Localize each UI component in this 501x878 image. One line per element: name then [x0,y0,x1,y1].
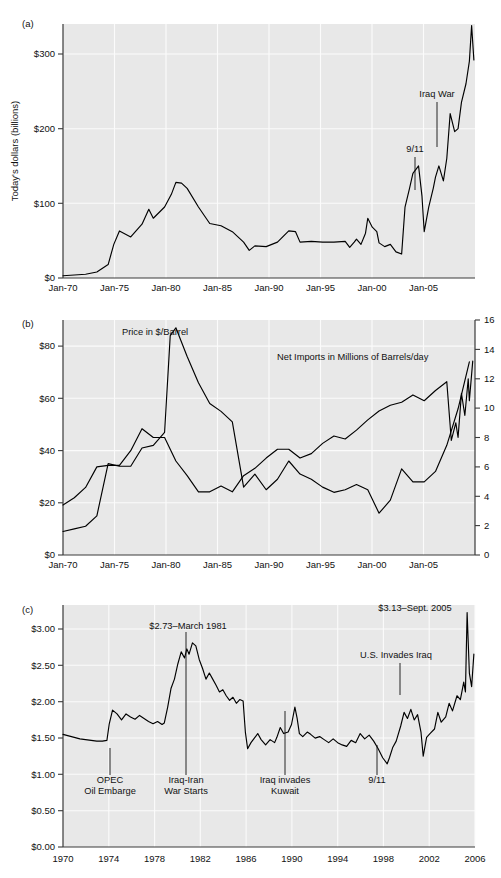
panel-b-label-net-imports: Net Imports in Millions of Barrels/day [277,352,429,362]
oil-price-figure: (a) [0,0,501,878]
panel-c-annotation-peak-2005-label: $3.13–Sept. 2005 [378,603,451,613]
panel-a-xtick-7: Jan-05 [409,282,438,293]
panel-b-ytick-right-5: 10 [484,402,495,413]
panel-c-annotation-peak-1981-label: $2.73–March 1981 [149,621,227,631]
panel-c: (c) [0,585,501,878]
panel-c-xtick-8: 2002 [419,853,440,864]
panel-a-ytick-3: $300 [34,48,55,59]
panel-c-annotation-iraq-iran-line1: Iraq-Iran [168,775,203,785]
panel-b-ytick-right-0: 0 [484,549,489,560]
panel-a: (a) [0,0,501,300]
panel-c-xtick-2: 1978 [144,853,165,864]
panel-b-ytick-right-1: 2 [484,520,489,531]
panel-c-xtick-7: 1998 [373,853,394,864]
panel-c-xtick-4: 1986 [236,853,257,864]
panel-b-xtick-2: Jan-80 [151,559,180,570]
panel-c-xtick-5: 1990 [281,853,302,864]
panel-c-xtick-3: 1982 [190,853,211,864]
panel-c-annotation-kuwait-line1: Iraq invades [260,775,311,785]
panel-c-ytick-3: $1.50 [31,732,55,743]
panel-a-y-ticks: $0 $100 $200 $300 [34,48,63,283]
panel-b-ytick-left-4: $80 [39,340,55,351]
panel-c-annotation-opec-line2: Oil Embarge [84,786,136,796]
panel-c-ytick-1: $0.50 [31,805,55,816]
panel-a-svg: (a) [0,0,501,300]
panel-a-xtick-0: Jan-70 [48,282,77,293]
panel-a-xtick-2: Jan-80 [151,282,180,293]
panel-b-ytick-right-3: 6 [484,461,489,472]
panel-c-x-ticks: 1970 1974 1978 1982 1986 1990 1994 1998 … [52,853,485,864]
panel-b-xtick-0: Jan-70 [48,559,77,570]
panel-a-x-ticks: Jan-70 Jan-75 Jan-80 Jan-85 Jan-90 Jan-9… [48,282,438,293]
panel-c-ytick-6: $3.00 [31,623,55,634]
panel-b-ytick-left-3: $60 [39,393,55,404]
panel-c-ytick-0: $0.00 [31,841,55,852]
panel-a-xtick-4: Jan-90 [254,282,283,293]
panel-b-xtick-3: Jan-85 [203,559,232,570]
panel-c-annotation-911-label: 9/11 [368,775,385,785]
panel-b-xtick-7: Jan-05 [409,559,438,570]
panel-b-label: (b) [22,318,34,329]
panel-b-xtick-1: Jan-75 [100,559,129,570]
panel-a-xtick-3: Jan-85 [203,282,232,293]
panel-b-y-ticks-right: 0 2 4 6 8 10 12 14 16 [475,314,495,560]
panel-b-xtick-5: Jan-95 [306,559,335,570]
panel-c-ytick-4: $2.00 [31,696,55,707]
panel-b-xtick-4: Jan-90 [254,559,283,570]
panel-b-ytick-right-4: 8 [484,432,489,443]
panel-b-y-ticks-left: $0 $20 $40 $60 $80 [39,340,63,560]
panel-b-ytick-right-2: 4 [484,491,489,502]
panel-c-annotation-us-invades-iraq-label: U.S. Invades Iraq [360,650,432,660]
panel-b: (b) [0,300,501,585]
panel-b-ytick-left-2: $40 [39,445,55,456]
panel-c-annotation-iraq-iran-line2: War Starts [164,786,208,796]
panel-c-xtick-1: 1974 [98,853,119,864]
panel-a-annotation-911-label: 9/11 [406,144,423,154]
panel-a-ytick-2: $200 [34,123,55,134]
panel-b-x-ticks: Jan-70 Jan-75 Jan-80 Jan-85 Jan-90 Jan-9… [48,559,438,570]
panel-c-annotation-peak-2005: $3.13–Sept. 2005 [378,603,451,613]
panel-b-ytick-left-1: $20 [39,497,55,508]
panel-a-label: (a) [22,18,34,29]
panel-c-y-ticks: $0.00 $0.50 $1.00 $1.50 $2.00 $2.50 $3.0… [31,623,63,852]
panel-c-annotation-peak-1981: $2.73–March 1981 [149,621,227,631]
panel-c-xtick-9: 2006 [464,853,485,864]
panel-c-annotation-opec-line1: OPEC [97,775,124,785]
panel-c-ytick-5: $2.50 [31,660,55,671]
panel-a-xtick-6: Jan-00 [357,282,386,293]
panel-a-ytick-1: $100 [34,198,55,209]
panel-a-y-axis-title: Today's dollars (billions) [9,101,20,202]
panel-a-xtick-1: Jan-75 [100,282,129,293]
panel-c-label: (c) [22,604,33,615]
panel-b-ytick-right-6: 12 [484,373,495,384]
panel-b-ytick-right-7: 14 [484,344,495,355]
panel-c-xtick-0: 1970 [52,853,73,864]
panel-b-xtick-6: Jan-00 [357,559,386,570]
panel-a-annotation-iraq-war-label: Iraq War [419,89,454,99]
panel-c-ytick-2: $1.00 [31,769,55,780]
panel-c-xtick-6: 1994 [327,853,348,864]
panel-b-ytick-right-8: 16 [484,314,495,325]
panel-b-svg: (b) [0,300,501,585]
panel-a-xtick-5: Jan-95 [306,282,335,293]
panel-c-svg: (c) [0,585,501,878]
panel-c-annotation-kuwait-line2: Kuwait [271,786,299,796]
panel-b-label-price: Price in $/Barrel [122,327,188,337]
